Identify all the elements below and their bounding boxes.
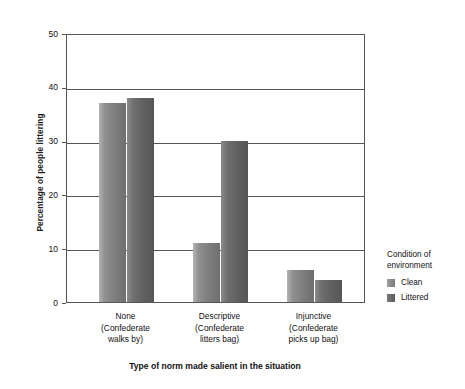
plot-area [66,34,365,303]
y-axis-title: Percentage of people littering [36,73,45,273]
legend-item-clean[interactable]: Clean [387,278,465,287]
legend-title: Condition ofenvironment [387,250,465,271]
legend-entries: CleanLittered [387,278,465,302]
bar-clean-2 [193,243,220,302]
y-tick-label: 50 [36,30,58,38]
x-category-label-line: Descriptive [174,311,266,323]
x-category-label-line: (Confederate [268,323,360,335]
x-category-label-line: (Confederate [80,323,172,335]
bar-littered-2 [221,141,248,302]
x-axis-title: Type of norm made salient in the situati… [0,361,430,371]
x-category-label: None(Confederatewalks by) [80,311,172,346]
y-tick-label: 30 [36,137,58,145]
bar-clean-1 [99,103,126,302]
bar-clean-3 [287,270,314,302]
legend-label: Littered [401,293,428,302]
x-category-label-line: Injunctive [268,311,360,323]
legend-label: Clean [401,278,422,287]
y-tick-label: 0 [36,299,58,307]
bar-littered-1 [127,98,154,302]
legend-item-littered[interactable]: Littered [387,293,465,302]
y-tick-mark [62,303,66,304]
x-category-label-line: litters bag) [174,334,266,346]
legend: Condition ofenvironment CleanLittered [387,250,465,308]
gridline [67,89,364,90]
x-category-label-line: (Confederate [174,323,266,335]
bar-littered-3 [315,280,342,302]
legend-swatch-icon [387,294,395,302]
y-tick-label: 20 [36,191,58,199]
x-category-label: Injunctive(Confederatepicks up bag) [268,311,360,346]
x-category-label-line: None [80,311,172,323]
legend-swatch-icon [387,279,395,287]
x-category-label-line: picks up bag) [268,334,360,346]
x-category-label-line: walks by) [80,334,172,346]
legend-title-line: environment [387,261,465,272]
y-tick-label: 10 [36,245,58,253]
legend-title-line: Condition of [387,250,465,261]
bar-chart-figure: Percentage of people littering 010203040… [0,0,465,389]
y-tick-label: 40 [36,83,58,91]
x-category-label: Descriptive(Confederatelitters bag) [174,311,266,346]
